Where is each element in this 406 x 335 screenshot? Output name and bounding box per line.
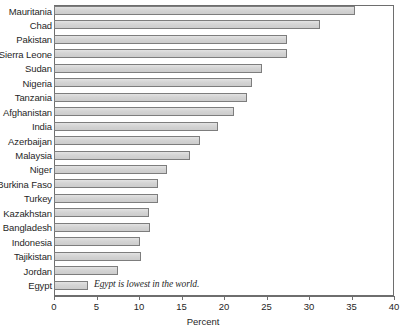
- bar-afghanistan: [54, 107, 234, 116]
- bar-tajikistan: [54, 252, 141, 261]
- x-tick-mark-10: [139, 296, 140, 300]
- bar-sierra-leone: [54, 49, 287, 58]
- bar-jordan: [54, 266, 118, 275]
- x-tick-mark-35: [352, 296, 353, 300]
- x-tick-label-40: 40: [389, 301, 400, 312]
- category-label-mauritania: Mauritania: [0, 6, 52, 17]
- bar-sudan: [54, 64, 262, 73]
- category-label-sierra-leone: Sierra Leone: [0, 49, 52, 60]
- category-label-chad: Chad: [0, 20, 52, 31]
- category-label-india: India: [0, 121, 52, 132]
- category-label-afghanistan: Afghanistan: [0, 107, 52, 118]
- category-label-bangladesh: Bangladesh: [0, 222, 52, 233]
- x-tick-mark-30: [309, 296, 310, 300]
- category-label-sudan: Sudan: [0, 63, 52, 74]
- category-label-burkina-faso: Burkina Faso: [0, 179, 52, 190]
- bar-azerbaijan: [54, 136, 200, 145]
- x-tick-label-0: 0: [51, 301, 56, 312]
- bar-kazakhstan: [54, 208, 149, 217]
- category-label-niger: Niger: [0, 164, 52, 175]
- x-tick-label-10: 10: [134, 301, 145, 312]
- bar-egypt: [54, 281, 88, 290]
- x-tick-mark-20: [224, 296, 225, 300]
- bar-mauritania: [54, 6, 355, 15]
- x-tick-label-20: 20: [219, 301, 230, 312]
- x-tick-label-5: 5: [94, 301, 99, 312]
- category-label-azerbaijan: Azerbaijan: [0, 136, 52, 147]
- egypt-annotation: Egypt is lowest in the world.: [94, 279, 199, 289]
- bar-bangladesh: [54, 223, 150, 232]
- x-tick-mark-5: [97, 296, 98, 300]
- x-tick-label-35: 35: [346, 301, 357, 312]
- category-label-malaysia: Malaysia: [0, 150, 52, 161]
- x-tick-mark-40: [394, 296, 395, 300]
- category-label-pakistan: Pakistan: [0, 34, 52, 45]
- category-label-jordan: Jordan: [0, 266, 52, 277]
- x-tick-mark-25: [267, 296, 268, 300]
- category-label-turkey: Turkey: [0, 193, 52, 204]
- category-label-kazakhstan: Kazakhstan: [0, 208, 52, 219]
- x-tick-label-30: 30: [304, 301, 315, 312]
- category-label-tajikistan: Tajikistan: [0, 251, 52, 262]
- bar-nigeria: [54, 78, 252, 87]
- bar-niger: [54, 165, 167, 174]
- x-axis-title: Percent: [0, 316, 406, 327]
- category-label-nigeria: Nigeria: [0, 78, 52, 89]
- category-label-tanzania: Tanzania: [0, 92, 52, 103]
- bar-indonesia: [54, 237, 140, 246]
- x-tick-mark-15: [182, 296, 183, 300]
- bar-burkina-faso: [54, 179, 158, 188]
- bar-turkey: [54, 194, 158, 203]
- bar-india: [54, 122, 218, 131]
- category-label-indonesia: Indonesia: [0, 237, 52, 248]
- bar-malaysia: [54, 151, 190, 160]
- bar-tanzania: [54, 93, 247, 102]
- x-tick-mark-0: [54, 296, 55, 300]
- category-label-egypt: Egypt: [0, 280, 52, 291]
- x-tick-label-15: 15: [176, 301, 187, 312]
- bar-pakistan: [54, 35, 287, 44]
- x-tick-label-25: 25: [261, 301, 272, 312]
- bar-chad: [54, 20, 320, 29]
- horizontal-bar-chart: MauritaniaChadPakistanSierra LeoneSudanN…: [0, 0, 406, 335]
